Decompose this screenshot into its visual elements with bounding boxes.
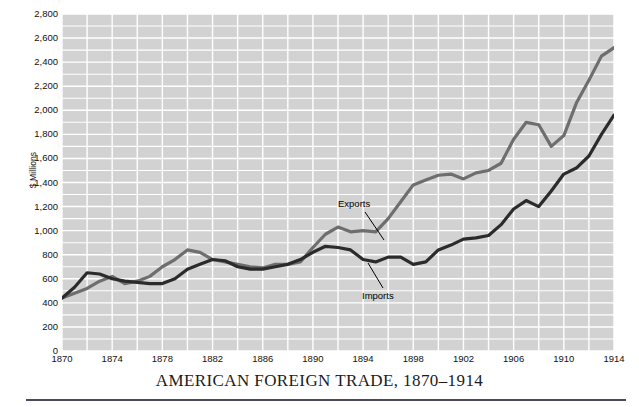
y-tick-label: 2,800	[6, 9, 58, 19]
y-tick-label: 1,200	[6, 202, 58, 212]
annotation-imports: Imports	[362, 291, 394, 301]
x-tick-label: 1878	[142, 354, 182, 364]
y-tick-label: 1,800	[6, 129, 58, 139]
figure-american-foreign-trade: $ Millions 02004006008001,0001,2001,4001…	[0, 0, 639, 407]
gridlines	[62, 14, 614, 351]
caption-block: AMERICAN FOREIGN TRADE, 1870–1914	[0, 368, 639, 407]
y-tick-label: 200	[6, 322, 58, 332]
x-tick-label: 1870	[42, 354, 82, 364]
x-tick-label: 1910	[544, 354, 584, 364]
y-tick-label: 1,000	[6, 226, 58, 236]
x-tick-label: 1882	[193, 354, 233, 364]
x-tick-label: 1894	[343, 354, 383, 364]
y-tick-label: 400	[6, 298, 58, 308]
y-axis-ticks: 02004006008001,0001,2001,4001,6001,8002,…	[0, 0, 58, 368]
y-tick-label: 1,400	[6, 178, 58, 188]
x-tick-label: 1886	[243, 354, 283, 364]
x-tick-label: 1914	[594, 354, 634, 364]
y-tick-label: 1,600	[6, 153, 58, 163]
figure-caption: AMERICAN FOREIGN TRADE, 1870–1914	[0, 371, 639, 391]
y-tick-label: 2,000	[6, 105, 58, 115]
x-tick-label: 1906	[494, 354, 534, 364]
x-tick-label: 1898	[393, 354, 433, 364]
x-tick-label: 1902	[443, 354, 483, 364]
plot-region	[62, 14, 614, 351]
annotation-exports: Exports	[338, 199, 370, 209]
y-tick-label: 2,200	[6, 81, 58, 91]
y-tick-label: 2,600	[6, 33, 58, 43]
y-tick-label: 800	[6, 250, 58, 260]
x-tick-label: 1874	[92, 354, 132, 364]
y-tick-label: 2,400	[6, 57, 58, 67]
x-tick-label: 1890	[293, 354, 333, 364]
chart-area: $ Millions 02004006008001,0001,2001,4001…	[0, 0, 639, 368]
data-lines	[62, 14, 614, 351]
y-tick-label: 600	[6, 274, 58, 284]
caption-divider	[26, 399, 626, 401]
